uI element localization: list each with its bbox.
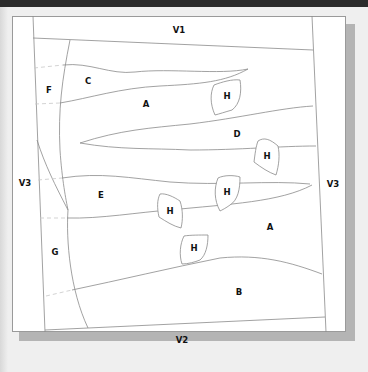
label-h-3: H	[223, 187, 230, 197]
label-v1: V1	[173, 25, 186, 35]
right-band-boundary	[312, 16, 326, 332]
label-h-2: H	[263, 151, 270, 161]
label-f: F	[46, 85, 52, 95]
e-region-top-boundary	[62, 175, 310, 184]
label-a-upper: A	[143, 99, 150, 109]
fg-strip-boundary	[59, 40, 88, 328]
label-h-1: H	[223, 91, 230, 101]
b-region-top-boundary	[72, 257, 322, 290]
label-v3-left: V3	[19, 178, 32, 188]
label-v2: V2	[176, 335, 189, 345]
v2-band-boundary	[45, 317, 325, 330]
label-h-5: H	[190, 243, 197, 253]
label-a-lower: A	[267, 222, 274, 232]
dashed-connector	[35, 103, 60, 104]
c-region-top-boundary	[63, 65, 248, 73]
label-g: G	[52, 247, 59, 257]
label-e: E	[98, 190, 104, 200]
zone-map: V1 V2 V3 V3 C F A D E A G B H H H H H	[0, 0, 368, 372]
label-c: C	[85, 76, 91, 86]
d-region-bottom-boundary	[80, 143, 316, 150]
label-h-4: H	[166, 206, 173, 216]
dashed-connector	[38, 178, 62, 180]
v1-band-boundary	[33, 38, 313, 50]
left-band-boundary	[33, 16, 45, 332]
dashed-connector	[46, 290, 72, 296]
label-b: B	[236, 287, 242, 297]
dashed-connector	[34, 65, 63, 68]
v3-diagonal-line	[37, 140, 68, 210]
label-v3-right: V3	[327, 179, 340, 189]
label-d: D	[233, 129, 240, 139]
d-region-top-boundary	[80, 106, 313, 143]
